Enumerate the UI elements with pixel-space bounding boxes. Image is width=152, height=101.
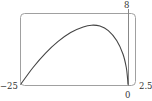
viewing-window-frame [21,14,136,86]
x-origin-tick-label: 0 [125,91,130,100]
y-max-tick-label: 8 [124,1,129,10]
chart-plot [0,0,152,101]
x-min-tick-label: −25 [0,82,18,91]
data-curve [21,25,128,84]
x-max-tick-label: 2.5 [139,82,152,91]
